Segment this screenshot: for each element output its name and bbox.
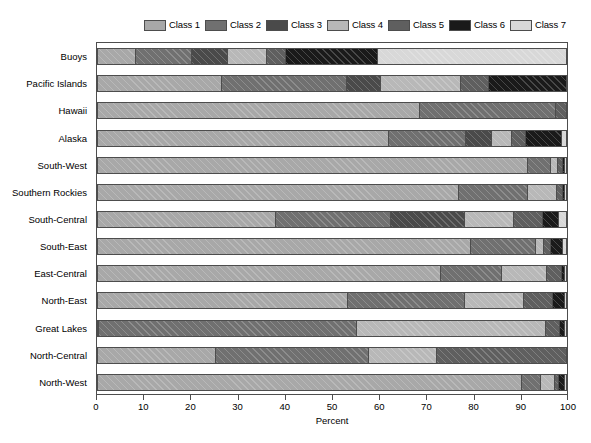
- bar-segment[interactable]: [502, 265, 547, 282]
- bar-segment[interactable]: [286, 48, 379, 65]
- bar-segment[interactable]: [512, 130, 527, 147]
- x-axis-tick: [332, 395, 333, 400]
- bar-segment[interactable]: [378, 48, 566, 65]
- bar-segment[interactable]: [562, 130, 567, 147]
- bar-segment[interactable]: [465, 292, 524, 309]
- bar-row[interactable]: [97, 347, 567, 364]
- bar-row[interactable]: [97, 265, 567, 282]
- bar-segment[interactable]: [559, 211, 567, 228]
- bar-segment[interactable]: [369, 347, 438, 364]
- bar-segment[interactable]: [541, 374, 555, 391]
- bar-segment[interactable]: [192, 48, 228, 65]
- legend-entry[interactable]: Class 1: [144, 20, 200, 31]
- bar-segment[interactable]: [543, 211, 559, 228]
- bar-segment[interactable]: [565, 292, 567, 309]
- bar-segment[interactable]: [276, 211, 391, 228]
- bar-segment[interactable]: [97, 265, 441, 282]
- bar-segment[interactable]: [459, 184, 528, 201]
- bar-row[interactable]: [97, 75, 567, 92]
- x-axis-tick-label: 90: [501, 401, 541, 412]
- y-axis-label: Pacific Islands: [0, 78, 87, 89]
- y-axis-label: North-Central: [0, 350, 87, 361]
- bar-segment[interactable]: [97, 184, 459, 201]
- bar-segment[interactable]: [347, 75, 382, 92]
- x-axis-title: Percent: [96, 415, 568, 426]
- bar-segment[interactable]: [514, 211, 543, 228]
- bar-segment[interactable]: [565, 265, 567, 282]
- bar-segment[interactable]: [565, 374, 567, 391]
- bar-segment[interactable]: [437, 347, 567, 364]
- bar-segment[interactable]: [267, 48, 286, 65]
- legend-entry[interactable]: Class 3: [266, 20, 322, 31]
- legend-swatch-icon: [205, 20, 227, 31]
- bar-row[interactable]: [97, 320, 567, 337]
- legend-entry[interactable]: Class 4: [327, 20, 383, 31]
- bar-row[interactable]: [97, 184, 567, 201]
- bar-segment[interactable]: [526, 130, 562, 147]
- bar-segment[interactable]: [136, 48, 193, 65]
- legend-entry[interactable]: Class 5: [388, 20, 444, 31]
- legend-entry[interactable]: Class 7: [510, 20, 566, 31]
- bar-segment[interactable]: [97, 75, 222, 92]
- bar-segment[interactable]: [461, 75, 489, 92]
- bar-segment[interactable]: [489, 75, 567, 92]
- bar-segment[interactable]: [357, 320, 546, 337]
- bar-segment[interactable]: [97, 157, 528, 174]
- bar-segment[interactable]: [565, 157, 567, 174]
- bar-row[interactable]: [97, 48, 567, 65]
- x-axis-tick: [143, 395, 144, 400]
- bar-segment[interactable]: [381, 75, 460, 92]
- bar-segment[interactable]: [420, 102, 555, 119]
- bar-segment[interactable]: [546, 320, 560, 337]
- bar-segment[interactable]: [97, 347, 216, 364]
- bar-segment[interactable]: [97, 211, 276, 228]
- bar-segment[interactable]: [389, 130, 466, 147]
- bar-segment[interactable]: [97, 130, 389, 147]
- bar-segment[interactable]: [536, 238, 544, 255]
- bar-row[interactable]: [97, 374, 567, 391]
- bar-segment[interactable]: [492, 130, 511, 147]
- bar-segment[interactable]: [97, 238, 471, 255]
- bar-segment[interactable]: [222, 75, 347, 92]
- bar-segment[interactable]: [97, 374, 522, 391]
- bar-segment[interactable]: [391, 211, 465, 228]
- bar-row[interactable]: [97, 292, 567, 309]
- y-axis-label: North-East: [0, 295, 87, 306]
- bar-segment[interactable]: [97, 292, 348, 309]
- y-axis-label: Great Lakes: [0, 323, 87, 334]
- bar-segment[interactable]: [97, 102, 420, 119]
- bar-segment[interactable]: [528, 184, 557, 201]
- bar-segment[interactable]: [465, 211, 514, 228]
- bar-segment[interactable]: [466, 130, 492, 147]
- bar-segment[interactable]: [471, 238, 536, 255]
- bar-row[interactable]: [97, 102, 567, 119]
- bar-segment[interactable]: [528, 157, 551, 174]
- bar-row[interactable]: [97, 130, 567, 147]
- bar-segment[interactable]: [565, 184, 567, 201]
- bar-segment[interactable]: [348, 292, 465, 309]
- bar-segment[interactable]: [565, 320, 567, 337]
- bar-segment[interactable]: [228, 48, 267, 65]
- bar-row[interactable]: [97, 211, 567, 228]
- bar-segment[interactable]: [551, 157, 558, 174]
- bar-row[interactable]: [97, 238, 567, 255]
- bar-segment[interactable]: [97, 48, 136, 65]
- x-axis-tick: [285, 395, 286, 400]
- bar-row[interactable]: [97, 157, 567, 174]
- bar-segment[interactable]: [556, 102, 567, 119]
- legend-label: Class 6: [474, 20, 505, 30]
- bar-segment[interactable]: [99, 320, 357, 337]
- bar-segment[interactable]: [216, 347, 369, 364]
- bar-segment[interactable]: [524, 292, 553, 309]
- chart-figure: Class 1Class 2Class 3Class 4Class 5Class…: [0, 0, 591, 443]
- bar-segment[interactable]: [544, 238, 552, 255]
- bar-segment[interactable]: [563, 238, 567, 255]
- legend-entry[interactable]: Class 2: [205, 20, 261, 31]
- legend-entry[interactable]: Class 6: [449, 20, 505, 31]
- bar-segment[interactable]: [551, 238, 562, 255]
- bar-segment[interactable]: [547, 265, 563, 282]
- y-axis-label: Buoys: [0, 51, 87, 62]
- bar-segment[interactable]: [522, 374, 541, 391]
- bar-segment[interactable]: [441, 265, 502, 282]
- bar-segment[interactable]: [553, 292, 565, 309]
